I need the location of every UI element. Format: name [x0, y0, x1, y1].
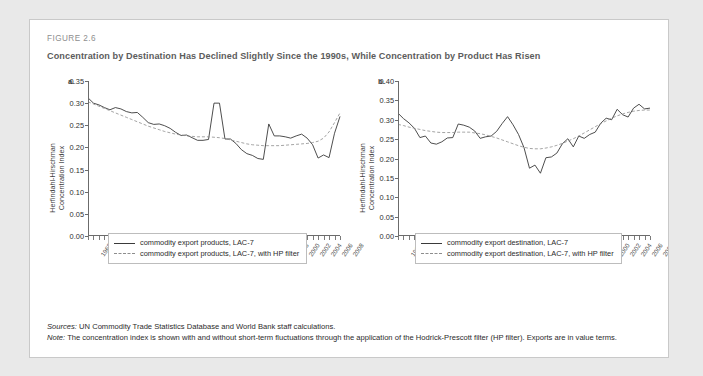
series-line: [398, 104, 650, 173]
panel-a-y-axis: [88, 81, 89, 236]
y-tick-label: 0.00: [380, 232, 394, 241]
y-tick-mark: [395, 159, 398, 160]
y-tick-label: 0.10: [380, 193, 394, 202]
y-tick-mark: [395, 81, 398, 82]
panel-b-y-axis-label-line2: Concentration Index: [367, 103, 376, 253]
x-tick-mark: [318, 236, 319, 240]
figure-card: FIGURE 2.6 Concentration by Destination …: [29, 19, 669, 358]
y-tick-label: 0.15: [380, 173, 394, 182]
panel-a-y-axis-label-line1: Herfindahl-Hirschman: [48, 103, 57, 253]
y-tick-mark: [85, 81, 88, 82]
sources-line: Sources: UN Commodity Trade Statistics D…: [47, 322, 652, 333]
y-tick-mark: [85, 192, 88, 193]
y-tick-mark: [85, 214, 88, 215]
note-text: The concentration index is shown with an…: [65, 333, 617, 342]
x-tick-mark: [634, 236, 635, 240]
x-tick-mark: [340, 236, 341, 240]
y-tick-label: 0.35: [70, 77, 84, 86]
y-tick-mark: [395, 100, 398, 101]
x-tick-mark: [639, 236, 640, 240]
panel-b-series-svg: [398, 81, 650, 236]
y-tick-mark: [395, 178, 398, 179]
panel-b-plot-area: 0.000.050.100.150.200.250.300.350.40: [398, 81, 650, 236]
panels-container: a. Herfindahl-Hirschman Concentration In…: [30, 75, 668, 315]
x-tick-mark: [324, 236, 325, 240]
y-tick-mark: [85, 103, 88, 104]
y-tick-label: 0.05: [380, 212, 394, 221]
series-line: [88, 98, 340, 160]
panel-b-y-axis-label-line1: Herfindahl-Hirschman: [358, 103, 367, 253]
y-tick-label: 0.25: [70, 121, 84, 130]
x-tick-mark: [403, 236, 404, 240]
y-tick-label: 0.40: [380, 77, 394, 86]
panel-a-y-axis-label-line2: Concentration Index: [57, 103, 66, 253]
x-tick-label: 2006: [650, 242, 664, 258]
legend-label: commodity export products, LAC-7: [140, 238, 254, 249]
x-tick-label: 2002: [318, 242, 332, 258]
legend-item: commodity export destination, LAC-7, wit…: [421, 249, 614, 260]
x-tick-mark: [329, 236, 330, 240]
legend-label: commodity export destination, LAC-7, wit…: [447, 249, 614, 260]
panel-b: b. Herfindahl-Hirschman Concentration In…: [352, 75, 662, 315]
x-tick-label: 2002: [628, 242, 642, 258]
x-tick-mark: [104, 236, 105, 240]
x-tick-mark: [645, 236, 646, 240]
sources-text: UN Commodity Trade Statistics Database a…: [77, 322, 335, 331]
x-tick-mark: [88, 236, 89, 240]
sources-label: Sources:: [47, 322, 77, 331]
legend-dashed-line-icon: [114, 250, 135, 257]
y-tick-mark: [85, 147, 88, 148]
series-line: [398, 110, 650, 149]
y-tick-label: 0.00: [70, 232, 84, 241]
x-tick-mark: [650, 236, 651, 240]
legend-item: commodity export products, LAC-7: [114, 238, 299, 249]
y-tick-label: 0.20: [70, 143, 84, 152]
y-tick-label: 0.05: [70, 209, 84, 218]
x-tick-mark: [623, 236, 624, 240]
y-tick-mark: [395, 217, 398, 218]
x-tick-mark: [313, 236, 314, 240]
x-tick-label: 2004: [329, 242, 343, 258]
panel-b-y-axis: [398, 81, 399, 236]
x-tick-mark: [93, 236, 94, 240]
x-tick-mark: [335, 236, 336, 240]
legend-dashed-line-icon: [421, 250, 442, 257]
y-tick-label: 0.25: [380, 135, 394, 144]
figure-title: Concentration by Destination Has Decline…: [47, 50, 654, 62]
figure-notes: Sources: UN Commodity Trade Statistics D…: [47, 322, 652, 343]
y-tick-mark: [395, 139, 398, 140]
panel-a-plot-area: 0.000.050.100.150.200.250.300.35: [88, 81, 340, 236]
panel-b-legend: commodity export destination, LAC-7 comm…: [415, 233, 622, 264]
panel-a-legend: commodity export products, LAC-7 commodi…: [108, 233, 307, 264]
y-tick-mark: [85, 125, 88, 126]
x-tick-mark: [628, 236, 629, 240]
y-tick-label: 0.20: [380, 154, 394, 163]
y-tick-mark: [85, 170, 88, 171]
legend-solid-line-icon: [421, 240, 442, 247]
series-line: [88, 102, 340, 146]
x-tick-label: 2004: [639, 242, 653, 258]
x-tick-mark: [398, 236, 399, 240]
y-tick-mark: [395, 120, 398, 121]
x-tick-mark: [99, 236, 100, 240]
y-tick-mark: [395, 197, 398, 198]
x-tick-mark: [409, 236, 410, 240]
legend-item: commodity export products, LAC-7, with H…: [114, 249, 299, 260]
note-line: Note: The concentration index is shown w…: [47, 333, 652, 344]
y-tick-label: 0.30: [70, 99, 84, 108]
panel-a-series-svg: [88, 81, 340, 236]
note-label: Note:: [47, 333, 65, 342]
y-tick-label: 0.35: [380, 96, 394, 105]
legend-label: commodity export destination, LAC-7: [447, 238, 568, 249]
legend-label: commodity export products, LAC-7, with H…: [140, 249, 299, 260]
y-tick-label: 0.10: [70, 187, 84, 196]
figure-number: FIGURE 2.6: [47, 34, 96, 43]
y-tick-label: 0.15: [70, 165, 84, 174]
legend-solid-line-icon: [114, 240, 135, 247]
legend-item: commodity export destination, LAC-7: [421, 238, 614, 249]
x-tick-label: 2000: [307, 242, 321, 258]
panel-a: a. Herfindahl-Hirschman Concentration In…: [42, 75, 352, 315]
x-tick-mark: [307, 236, 308, 240]
y-tick-label: 0.30: [380, 115, 394, 124]
